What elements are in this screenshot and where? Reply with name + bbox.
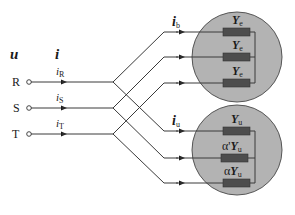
voltage-vector-label: u xyxy=(10,46,18,62)
current-s-label: iS xyxy=(56,91,64,105)
terminal-s-label: S xyxy=(13,101,20,115)
admittance-yu-1 xyxy=(223,127,250,135)
admittance-ye-3 xyxy=(223,79,250,87)
terminal-r-label: R xyxy=(12,75,20,89)
current-t-label: iT xyxy=(56,117,64,131)
terminal-s-node xyxy=(27,106,32,111)
admittance-yu-3 xyxy=(223,179,250,187)
admittance-ye-1 xyxy=(223,28,250,36)
current-r-label: iR xyxy=(56,65,65,79)
input-wires xyxy=(31,82,113,134)
circuit-diagram: u i R S T iR iS iT xyxy=(0,0,295,215)
admittance-ye-2 xyxy=(223,53,250,61)
terminal-r-node xyxy=(27,80,32,85)
terminal-t-node xyxy=(27,132,32,137)
terminal-t-label: T xyxy=(12,127,20,141)
current-vector-label: i xyxy=(55,46,60,62)
balanced-current-label: ib xyxy=(172,14,180,30)
unbalanced-current-label: iu xyxy=(172,113,180,129)
admittance-yu-2 xyxy=(221,154,248,162)
